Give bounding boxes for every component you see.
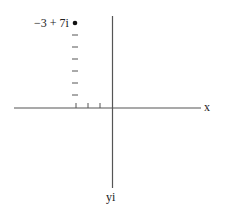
y-axis-label: yi (106, 191, 115, 203)
complex-plane-diagram (0, 0, 230, 218)
x-axis-ticks (76, 103, 100, 108)
point-label: −3 + 7i (34, 17, 69, 29)
point-marker (73, 21, 78, 26)
x-axis-label: x (204, 101, 210, 113)
imag-ticks (72, 35, 78, 95)
